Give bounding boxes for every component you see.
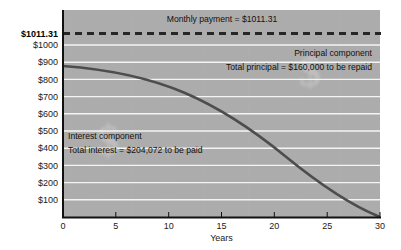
x-tick-20: 20 [269, 221, 279, 231]
y-tick-1000: $1000 [33, 40, 58, 50]
x-axis-title: Years [210, 233, 233, 243]
y-tick-600: $600 [38, 109, 58, 119]
y-tick-400: $400 [38, 143, 58, 153]
y-tick-900: $900 [38, 57, 58, 67]
x-tick-10: 10 [164, 221, 174, 231]
x-tick-5: 5 [113, 221, 118, 231]
annotation-principal-title: Principal component [294, 48, 372, 58]
annotation-interest-title: Interest component [68, 131, 142, 141]
x-tick-30: 30 [375, 221, 385, 231]
x-tick-25: 25 [322, 221, 332, 231]
x-tick-15: 15 [216, 221, 226, 231]
x-tick-0: 0 [60, 221, 65, 231]
y-tick-200: $200 [38, 178, 58, 188]
mortgage-amortization-chart: $ $ [0, 0, 401, 250]
y-tick-highlight: $1011.31 [21, 29, 58, 39]
y-tick-700: $700 [38, 92, 58, 102]
y-tick-100: $100 [38, 195, 58, 205]
y-tick-500: $500 [38, 126, 58, 136]
annotation-interest-total: Total interest = $204,072 to be paid [68, 145, 203, 155]
annotation-principal-total: Total principal = $160,000 to be repaid [226, 62, 372, 72]
annotation-monthly-payment: Monthly payment = $1011.31 [167, 14, 278, 24]
y-tick-800: $800 [38, 75, 58, 85]
y-tick-300: $300 [38, 161, 58, 171]
